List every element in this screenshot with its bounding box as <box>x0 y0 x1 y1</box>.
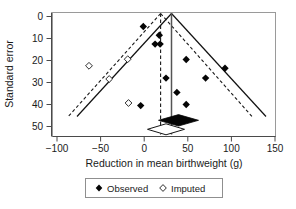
chart-legend: Observed Imputed <box>86 179 223 198</box>
y-tick-label: 20 <box>32 55 44 66</box>
y-axis-title: Standard error <box>3 40 15 108</box>
y-tick-label: 40 <box>32 99 44 110</box>
x-tick-label: −50 <box>92 143 109 154</box>
x-tick-label: −100 <box>46 143 69 154</box>
legend-label-imputed: Imputed <box>171 183 205 194</box>
x-tick-label: 150 <box>267 143 284 154</box>
legend-label-observed: Observed <box>107 183 148 194</box>
chart-canvas: −100 −50 0 50 100 150 0 10 20 30 40 50 R… <box>0 0 296 209</box>
x-tick-labels: −100 −50 0 50 100 150 <box>46 143 284 154</box>
y-tick-label: 10 <box>32 33 44 44</box>
y-tick-label: 0 <box>37 11 43 22</box>
y-tick-label: 50 <box>32 121 44 132</box>
y-axis <box>47 13 52 137</box>
funnel-plot-figure: −100 −50 0 50 100 150 0 10 20 30 40 50 R… <box>0 0 296 209</box>
x-tick-label: 100 <box>223 143 240 154</box>
y-tick-label: 30 <box>32 77 44 88</box>
x-tick-label: 50 <box>182 143 194 154</box>
plot-frame <box>53 13 276 137</box>
y-tick-labels: 0 10 20 30 40 50 <box>32 11 44 132</box>
x-axis-title: Reduction in mean birthweight (g) <box>86 157 243 169</box>
x-axis <box>53 137 276 142</box>
x-tick-label: 0 <box>141 143 147 154</box>
